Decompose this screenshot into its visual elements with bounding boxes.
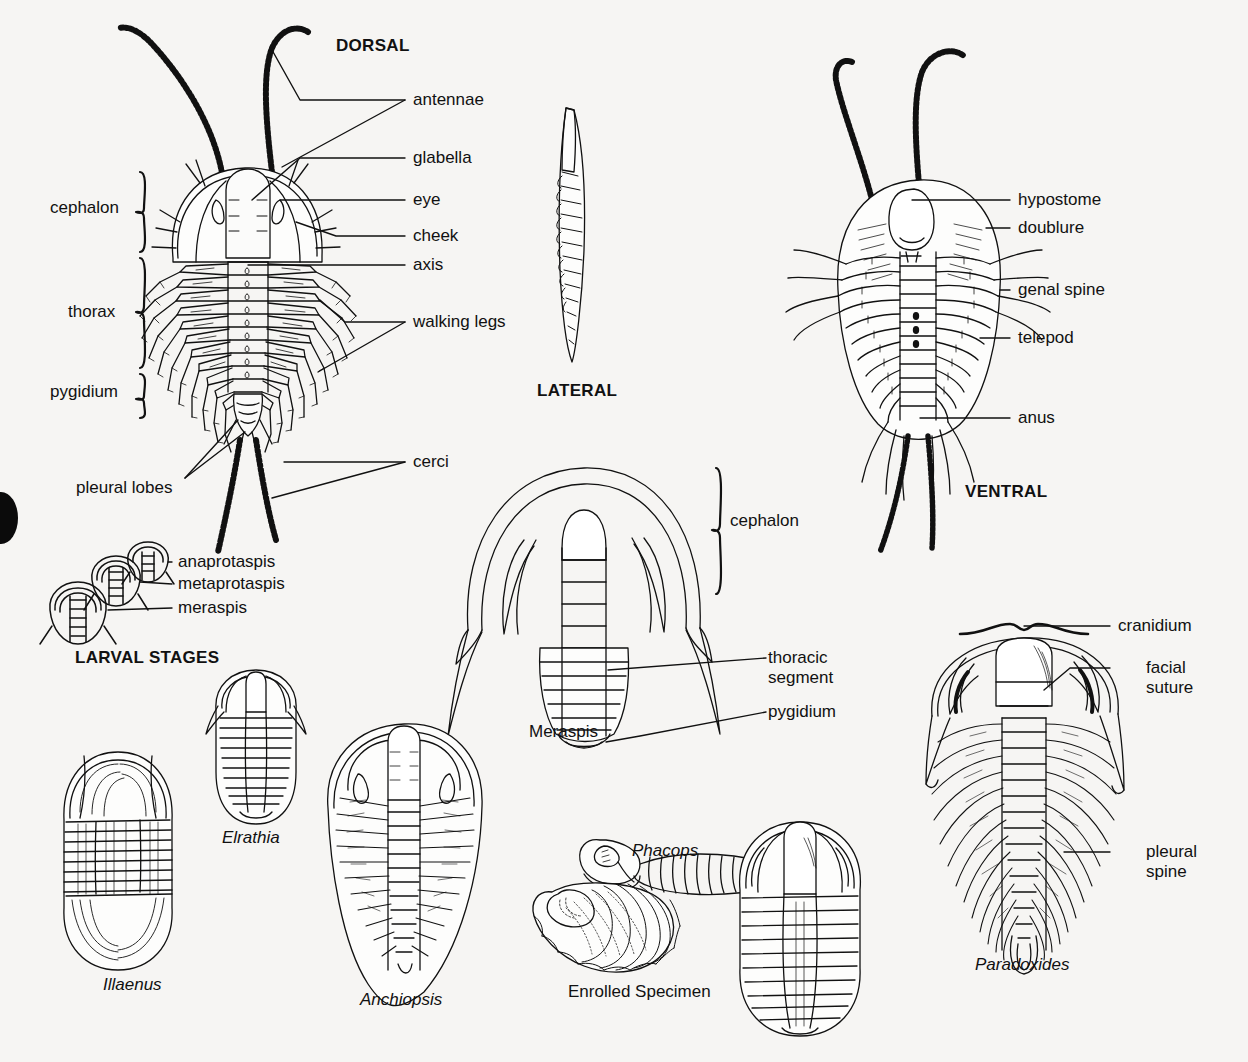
dorsal-region-brackets bbox=[136, 172, 145, 418]
title-dorsal: DORSAL bbox=[336, 36, 410, 56]
label-anaprotaspis: anaprotaspis bbox=[178, 552, 275, 572]
unlabeled-specimen-drawing bbox=[740, 822, 861, 1036]
enrolled-specimen-drawing bbox=[533, 883, 680, 972]
caption-phacops: Phacops bbox=[632, 841, 698, 861]
label-genal-spine: genal spine bbox=[1018, 280, 1105, 300]
anchiopsis-drawing bbox=[328, 724, 482, 1006]
label-facial-suture-line1: facial bbox=[1146, 658, 1186, 678]
title-larval-stages: LARVAL STAGES bbox=[75, 648, 219, 668]
label-telepod: telepod bbox=[1018, 328, 1074, 348]
label-hypostome: hypostome bbox=[1018, 190, 1101, 210]
label-walking-legs: walking legs bbox=[413, 312, 506, 332]
caption-anchiopsis: Anchiopsis bbox=[360, 990, 442, 1010]
label-pleural-spine-line1: pleural bbox=[1146, 842, 1197, 862]
elrathia-drawing bbox=[206, 670, 306, 824]
label-glabella: glabella bbox=[413, 148, 472, 168]
larval-stages-drawing bbox=[40, 542, 174, 644]
meraspis-diagram-drawing bbox=[448, 468, 721, 748]
label-cranidium: cranidium bbox=[1118, 616, 1192, 636]
label-metaprotaspis: metaprotaspis bbox=[178, 574, 285, 594]
label-facial-suture-line2: suture bbox=[1146, 678, 1193, 698]
figure-canvas: DORSAL LATERAL VENTRAL LARVAL STAGES ant… bbox=[0, 0, 1248, 1062]
label-meraspis: meraspis bbox=[178, 598, 247, 618]
label-eye: eye bbox=[413, 190, 440, 210]
label-thoracic-segment-line1: thoracic bbox=[768, 648, 828, 668]
illaenus-drawing bbox=[64, 752, 172, 970]
dorsal-trilobite-drawing bbox=[120, 28, 356, 552]
label-antennae: antennae bbox=[413, 90, 484, 110]
title-ventral: VENTRAL bbox=[965, 482, 1047, 502]
label-pleural-lobes: pleural lobes bbox=[76, 478, 172, 498]
larval-leader-lines bbox=[108, 562, 172, 610]
title-lateral: LATERAL bbox=[537, 381, 617, 401]
paradoxides-drawing bbox=[926, 624, 1124, 974]
label-cerci: cerci bbox=[413, 452, 449, 472]
label-meraspis-pygidium: pygidium bbox=[768, 702, 836, 722]
label-pygidium: pygidium bbox=[50, 382, 118, 402]
caption-illaenus: Illaenus bbox=[103, 975, 162, 995]
ventral-trilobite-drawing bbox=[786, 51, 1050, 552]
label-doublure: doublure bbox=[1018, 218, 1084, 238]
caption-meraspis: Meraspis bbox=[529, 722, 598, 742]
meraspis-leader-lines bbox=[606, 658, 766, 742]
label-pleural-spine-line2: spine bbox=[1146, 862, 1187, 882]
label-axis: axis bbox=[413, 255, 443, 275]
caption-paradoxides: Paradoxides bbox=[975, 955, 1070, 975]
label-cheek: cheek bbox=[413, 226, 458, 246]
label-thoracic-segment-line2: segment bbox=[768, 668, 833, 688]
caption-enrolled-specimen: Enrolled Specimen bbox=[568, 982, 711, 1002]
trilobite-illustrations bbox=[0, 0, 1248, 1062]
caption-elrathia: Elrathia bbox=[222, 828, 280, 848]
label-thorax: thorax bbox=[68, 302, 115, 322]
label-anus: anus bbox=[1018, 408, 1055, 428]
label-cephalon: cephalon bbox=[50, 198, 119, 218]
label-meraspis-cephalon: cephalon bbox=[730, 511, 799, 531]
lateral-trilobite-drawing bbox=[557, 108, 585, 362]
